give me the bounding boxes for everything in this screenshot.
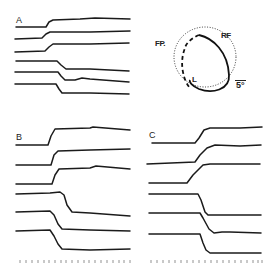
- fixation-point-label: FP.: [155, 39, 165, 48]
- panel-label-c: C: [149, 131, 156, 140]
- time-marker-left: [20, 260, 130, 263]
- receptive-field-label: RF: [221, 31, 231, 40]
- time-marker-right: [151, 260, 262, 263]
- figure-canvas: [0, 0, 272, 276]
- panel-c-traces: [147, 127, 262, 253]
- panel-label-a: A: [16, 16, 22, 25]
- panel-a-traces: [15, 18, 130, 94]
- panel-b-traces: [16, 127, 130, 250]
- stimulus-path-label: L: [192, 75, 197, 84]
- panel-label-b: B: [16, 133, 22, 142]
- scale-bar: 5°: [235, 80, 246, 90]
